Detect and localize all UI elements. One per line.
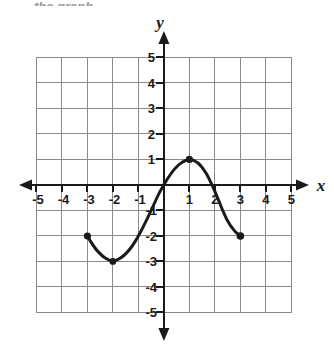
y-tick-label-1: 1 [148,152,155,167]
point-right-endpoint [237,232,245,240]
x-axis-arrow-left [19,180,32,191]
x-tick-label-4: 4 [262,192,270,207]
y-tick-label-2: 2 [148,127,155,142]
y-axis-label: y [154,13,164,32]
y-tick-label-5: 5 [148,50,155,65]
x-tick-label--4: -4 [58,192,70,207]
x-tick-label-3: 3 [237,192,244,207]
y-tick-label--3: -3 [145,254,157,269]
x-axis-arrow-right [296,180,309,191]
point-local-minimum [110,258,117,265]
coordinate-plane-svg: -5 -4 -3 -2 -1 1 2 3 4 5 5 4 3 2 1 -1 -2… [0,0,334,352]
y-tick-label-4: 4 [148,76,156,91]
y-axis-arrow-up [158,31,169,44]
x-tick-label-1: 1 [186,192,193,207]
y-tick-label--4: -4 [145,280,157,295]
y-axis-arrow-down [158,328,169,341]
graph-figure: the graph [0,0,334,352]
x-tick-label--1: -1 [134,192,146,207]
x-tick-label--2: -2 [109,192,121,207]
x-tick-label--3: -3 [83,192,95,207]
point-left-endpoint [84,232,91,239]
cropped-caption-text: the graph [34,0,154,6]
point-local-maximum [186,156,193,163]
y-tick-label--5: -5 [145,305,157,320]
x-axis-label: x [316,176,326,195]
y-tick-label-3: 3 [148,101,155,116]
y-tick-label--2: -2 [145,229,157,244]
x-tick-label-5: 5 [288,192,295,207]
x-tick-label--5: -5 [32,192,44,207]
